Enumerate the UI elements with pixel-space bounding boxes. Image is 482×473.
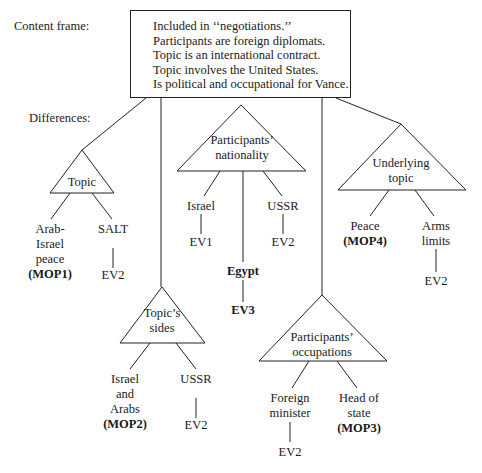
differences-label: Differences: bbox=[29, 111, 91, 126]
occupations-node-label: Participants’ occupations bbox=[283, 330, 361, 360]
event-ev3: EV3 bbox=[223, 303, 263, 318]
leaf-israel-and-arabs: Israel and Arabs (MOP2) bbox=[100, 372, 150, 432]
mop-tag: (MOP3) bbox=[332, 421, 386, 436]
leaf-head-of-state: Head of state (MOP3) bbox=[332, 391, 386, 436]
leaf-egypt: Egypt bbox=[221, 264, 265, 279]
event-ev2: EV2 bbox=[176, 418, 216, 433]
leaf-foreign-minister: Foreign minister bbox=[263, 391, 317, 421]
event-ev2: EV2 bbox=[416, 274, 456, 289]
topics-sides-node-label: Topic’s sides bbox=[137, 306, 187, 336]
underlying-topic-node-label: Underlying topic bbox=[366, 156, 436, 186]
mop-tag: (MOP4) bbox=[340, 234, 390, 249]
leaf-salt: SALT bbox=[93, 222, 133, 237]
mop-tag: (MOP2) bbox=[100, 417, 150, 432]
content-frame-box: Included in ‘‘negotiations.’’ Participan… bbox=[130, 10, 351, 98]
topic-node-label: Topic bbox=[62, 175, 102, 190]
frame-line: Participants are foreign diplomats. bbox=[153, 34, 349, 49]
frame-line: Is political and occupational for Vance. bbox=[153, 77, 349, 92]
leaf-arms-limits: Arms limits bbox=[411, 219, 461, 249]
frame-line: Topic is an international contract. bbox=[153, 48, 349, 63]
nationality-node-label: Participants’ nationality bbox=[206, 133, 278, 163]
leaf-ussr: USSR bbox=[263, 199, 303, 214]
leaf-israel: Israel bbox=[181, 199, 221, 214]
leaf-arab-israel-peace: Arab- Israel peace (MOP1) bbox=[25, 222, 75, 282]
mop-tag: (MOP1) bbox=[25, 267, 75, 282]
content-frame-label: Content frame: bbox=[14, 19, 89, 34]
event-ev1: EV1 bbox=[181, 235, 221, 250]
event-ev2: EV2 bbox=[270, 445, 310, 460]
leaf-peace: Peace (MOP4) bbox=[340, 219, 390, 249]
event-ev2: EV2 bbox=[263, 235, 303, 250]
leaf-ussr: USSR bbox=[176, 372, 216, 387]
event-ev2: EV2 bbox=[93, 268, 133, 283]
frame-line: Included in ‘‘negotiations.’’ bbox=[153, 19, 349, 34]
frame-line: Topic involves the United States. bbox=[153, 63, 349, 78]
